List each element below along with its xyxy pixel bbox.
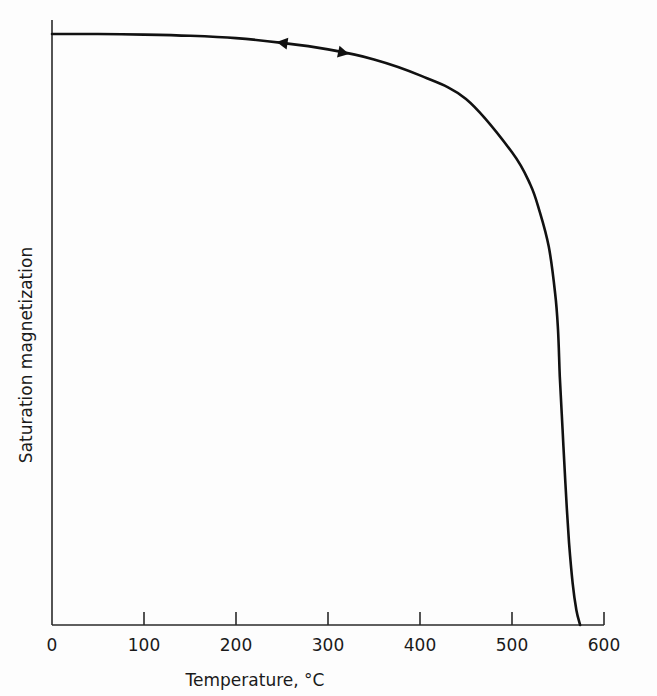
x-tick-label: 400 [404, 635, 436, 655]
x-tick-label: 200 [220, 635, 252, 655]
x-tick-label: 300 [312, 635, 344, 655]
magnetization-curve [52, 34, 580, 625]
x-axis-ticks [144, 612, 604, 625]
chart-canvas: 0 100 200 300 400 500 600 Temperature, °… [0, 0, 657, 696]
axes [52, 20, 604, 625]
x-tick-label: 500 [496, 635, 528, 655]
x-tick-label: 600 [588, 635, 620, 655]
y-axis-title: Saturation magnetization [16, 247, 36, 463]
x-axis-title: Temperature, °C [185, 670, 325, 690]
arrow-right-icon [337, 46, 349, 58]
x-tick-label: 100 [128, 635, 160, 655]
x-tick-label: 0 [47, 635, 58, 655]
x-axis-tick-labels: 0 100 200 300 400 500 600 [47, 635, 621, 655]
